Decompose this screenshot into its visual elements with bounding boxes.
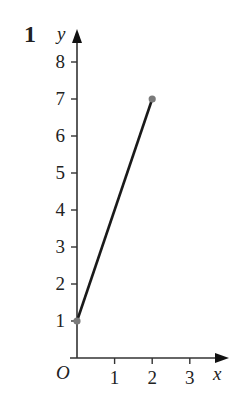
y-axis-arrow-icon [72, 29, 82, 43]
chart-figure: 1 12345678 123 y x O [0, 0, 247, 402]
axes [70, 29, 229, 363]
y-tick-label: 5 [56, 162, 66, 183]
x-axis-arrow-icon [215, 353, 229, 363]
y-tick-label: 1 [56, 310, 66, 331]
y-axis-label: y [55, 23, 66, 44]
x-tick-label: 2 [147, 367, 157, 388]
x-axis-label: x [212, 363, 222, 384]
x-ticks: 123 [110, 358, 195, 388]
y-tick-label: 8 [56, 51, 66, 72]
y-tick-label: 7 [56, 88, 66, 109]
y-tick-label: 3 [56, 236, 66, 257]
y-tick-label: 4 [56, 199, 66, 220]
origin-label: O [56, 362, 70, 383]
endpoint-marker [73, 317, 80, 324]
endpoint-marker [149, 95, 156, 102]
x-tick-label: 1 [110, 367, 120, 388]
data-series [73, 95, 155, 324]
line-segment [77, 99, 152, 321]
y-tick-label: 2 [56, 273, 66, 294]
y-ticks: 12345678 [56, 51, 78, 331]
question-number: 1 [24, 21, 36, 47]
y-tick-label: 6 [56, 125, 66, 146]
x-tick-label: 3 [185, 367, 195, 388]
